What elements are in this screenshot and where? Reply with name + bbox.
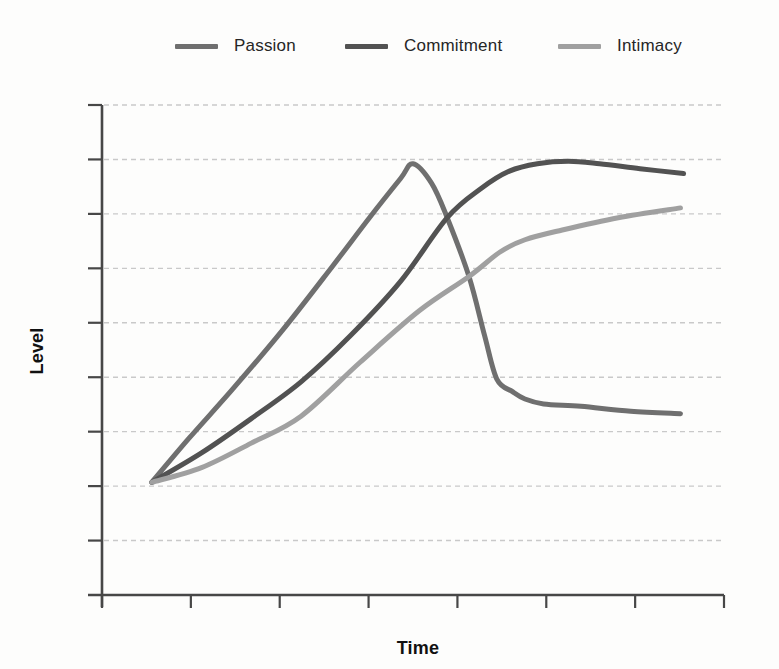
x-axis-title: Time xyxy=(397,638,440,659)
y-axis-title: Level xyxy=(27,327,48,374)
commitment-curve xyxy=(152,161,684,482)
intimacy-curve xyxy=(152,208,681,482)
sternberg-love-chart: Passion Commitment Intimacy Level Time xyxy=(0,0,779,669)
passion-line-swatch xyxy=(175,44,218,49)
legend-label-commitment: Commitment xyxy=(404,36,502,56)
intimacy-line-swatch xyxy=(558,44,601,49)
legend-label-passion: Passion xyxy=(234,36,296,56)
legend-item-passion: Passion xyxy=(175,37,296,55)
chart-plot xyxy=(0,0,779,669)
commitment-line-swatch xyxy=(345,44,388,49)
legend-item-intimacy: Intimacy xyxy=(558,37,682,55)
legend-label-intimacy: Intimacy xyxy=(617,36,682,56)
legend-item-commitment: Commitment xyxy=(345,37,502,55)
